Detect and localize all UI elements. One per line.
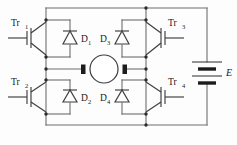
supply-battery[interactable] (192, 62, 222, 83)
transistor-tr3[interactable] (146, 22, 184, 55)
circuit-diagram-canvas: Tr 1 D 1 (0, 0, 237, 145)
label-d2-base: D (81, 93, 88, 103)
label-d3-base: D (100, 34, 107, 44)
node-bottom-mid (144, 123, 147, 126)
tr1-collector-lead (31, 22, 46, 33)
label-tr4-base: Tr (168, 77, 177, 87)
node-motor-left (44, 67, 47, 70)
d1-triangle (63, 31, 77, 44)
label-d4: D 4 (100, 93, 111, 105)
label-tr4-sub: 4 (182, 82, 186, 89)
label-tr3: Tr 3 (168, 18, 185, 30)
tr4-emitter-lead (146, 102, 161, 112)
label-tr2-base: Tr (11, 77, 20, 87)
node-tr2-collector (44, 78, 47, 81)
d3-triangle (115, 31, 129, 44)
motor-armature-circle (90, 55, 118, 83)
label-supply-e: E (225, 67, 232, 78)
label-d2: D 2 (81, 93, 91, 105)
diode-d4[interactable] (115, 90, 129, 102)
tr1-emitter-lead (31, 43, 46, 55)
label-d3: D 3 (100, 34, 110, 46)
node-motor-right (144, 67, 147, 70)
motor-branch (44, 55, 147, 83)
d4-triangle (115, 90, 129, 102)
label-tr1-base: Tr (11, 18, 20, 28)
node-tr1-emitter (44, 55, 47, 58)
node-tr4-collector (144, 78, 147, 81)
label-tr1: Tr 1 (11, 18, 28, 30)
diode-d3[interactable] (115, 31, 129, 44)
motor-brush-right (123, 65, 128, 75)
label-tr2-sub: 2 (25, 82, 28, 89)
label-d1-base: D (81, 34, 88, 44)
d2-triangle (63, 90, 77, 102)
node-tr3-emitter (144, 55, 147, 58)
tr4-collector-lead (146, 82, 161, 92)
circuit-schematic: Tr 1 D 1 (0, 0, 237, 145)
node-tr4-emitter (144, 112, 147, 115)
label-tr3-base: Tr (168, 18, 177, 28)
motor[interactable] (81, 55, 127, 83)
diode-d2[interactable] (63, 90, 77, 102)
node-top-mid (144, 6, 147, 9)
label-tr4: Tr 4 (168, 77, 186, 89)
label-tr1-sub: 1 (25, 23, 28, 30)
motor-brush-left (81, 65, 86, 75)
label-d1-sub: 1 (88, 39, 91, 46)
node-tr2-emitter (44, 112, 47, 115)
transistor-tr4[interactable] (146, 82, 184, 112)
tr3-emitter-lead (146, 43, 161, 55)
label-d1: D 1 (81, 34, 91, 46)
node-tr1-collector (44, 18, 47, 21)
label-tr2: Tr 2 (11, 77, 28, 89)
tr2-collector-lead (31, 82, 46, 92)
label-d4-base: D (100, 93, 107, 103)
tr2-emitter-lead (31, 102, 46, 112)
node-tr3-collector (144, 18, 147, 21)
tr3-collector-lead (146, 22, 161, 33)
label-d2-sub: 2 (88, 98, 91, 105)
label-d4-sub: 4 (107, 98, 111, 105)
diode-d1[interactable] (63, 31, 77, 44)
label-tr3-sub: 3 (182, 23, 185, 30)
label-d3-sub: 3 (107, 39, 110, 46)
